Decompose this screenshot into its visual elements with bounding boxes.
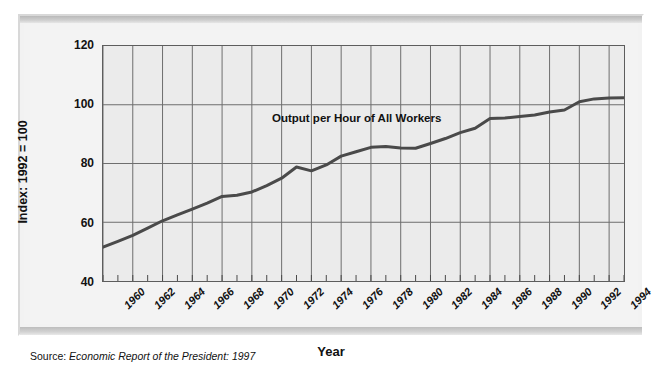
x-tick-label: 1982 [450,286,475,311]
x-tick-label: 1994 [628,286,653,311]
source-label: Source: [30,350,69,362]
x-tick-label: 1976 [360,286,385,311]
x-tick-label: 1988 [539,286,564,311]
source-text: Economic Report of the President: 1997 [69,350,255,362]
x-tick-label: 1978 [390,286,415,311]
x-tick-label: 1972 [301,286,326,311]
x-tick-label: 1992 [598,286,623,311]
x-tick-label: 1960 [122,286,147,311]
x-tick-label: 1966 [211,286,236,311]
x-tick-label: 1980 [420,286,445,311]
source-note: Source: Economic Report of the President… [30,350,255,362]
x-tick-label: 1990 [569,286,594,311]
x-tick-label: 1974 [331,286,356,311]
x-tick-label: 1964 [182,286,207,311]
x-tick-label: 1968 [241,286,266,311]
x-tick-label: 1970 [271,286,296,311]
chart-figure: Index: 1992 = 100 120 100 80 60 40 Outpu… [0,0,662,374]
x-tick-label: 1962 [152,286,177,311]
x-tick-label: 1986 [509,286,534,311]
x-axis-tick-labels: 1960196219641966196819701972197419761978… [0,0,662,374]
x-tick-label: 1984 [479,286,504,311]
